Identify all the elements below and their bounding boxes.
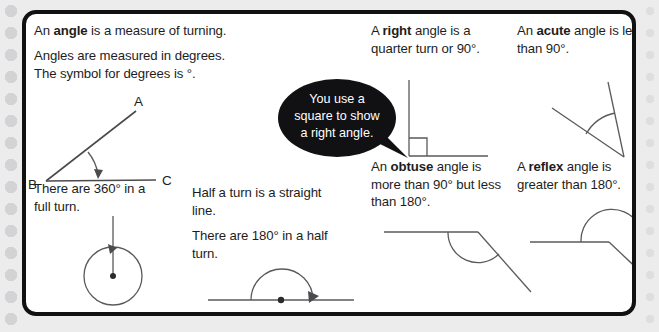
- label-vertex-a: A: [134, 94, 143, 109]
- angle-abc-diagram: A B C: [26, 84, 196, 194]
- obtuse-angle-diagram: [378, 214, 538, 314]
- half-turn-degrees-text: There are 180° in a half turn.: [192, 227, 362, 262]
- half-turn-diagram: [204, 262, 364, 314]
- half-turn-line-text: Half a turn is a straight line.: [192, 184, 362, 219]
- spiral-binding-right: [641, 0, 659, 332]
- label-vertex-b: B: [28, 177, 37, 192]
- full-turn-circle-diagram: [66, 210, 176, 315]
- right-angle-text: A right angle is a quarter turn or 90°.: [371, 22, 521, 57]
- acute-angle-diagram: [524, 72, 636, 167]
- acute-angle-text: An acute angle is less than 90°.: [517, 22, 636, 57]
- label-vertex-c: C: [162, 173, 172, 188]
- degrees-definition-text: Angles are measured in degrees. The symb…: [34, 47, 364, 82]
- spiral-binding-left: [0, 0, 22, 332]
- angles-worksheet-page: An angle is a measure of turning. Angles…: [0, 0, 659, 332]
- angle-definition-text: An angle is a measure of turning.: [34, 22, 364, 40]
- speech-bubble-text: You use a square to show a right angle.: [278, 91, 396, 142]
- speech-bubble: You use a square to show a right angle.: [278, 79, 396, 157]
- reflex-angle-diagram: [524, 204, 636, 314]
- content-card: An angle is a measure of turning. Angles…: [22, 10, 636, 316]
